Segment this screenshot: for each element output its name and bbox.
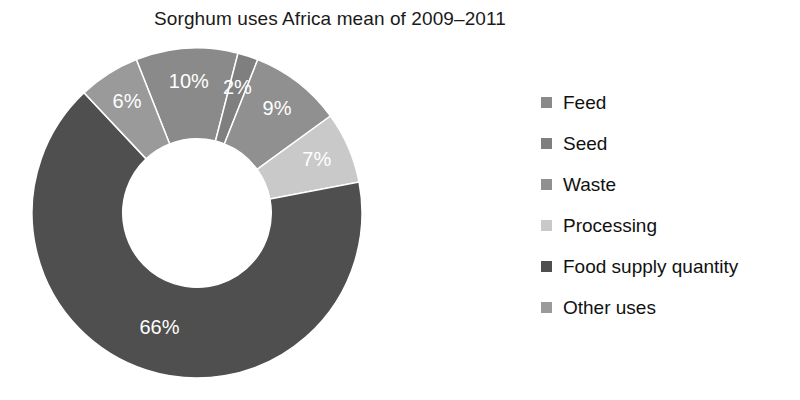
- legend-item[interactable]: Seed: [541, 123, 791, 164]
- legend-item-label: Seed: [563, 134, 607, 153]
- legend-item-label: Feed: [563, 93, 606, 112]
- donut-chart-svg: 10%2%9%7%66%6%: [32, 48, 362, 378]
- legend-item-label: Food supply quantity: [563, 257, 738, 276]
- donut-slice-label: 2%: [223, 76, 252, 98]
- legend-item-label: Waste: [563, 175, 616, 194]
- legend-swatch-icon: [541, 220, 552, 231]
- legend-swatch-icon: [541, 302, 552, 313]
- chart-title: Sorghum uses Africa mean of 2009–2011: [0, 8, 660, 30]
- donut-slice-label: 9%: [263, 97, 292, 119]
- chart-legend: FeedSeedWasteProcessingFood supply quant…: [541, 82, 791, 328]
- legend-item[interactable]: Waste: [541, 164, 791, 205]
- legend-item-label: Other uses: [563, 298, 656, 317]
- legend-item[interactable]: Feed: [541, 82, 791, 123]
- donut-slice-label: 66%: [139, 316, 179, 338]
- donut-slice-label: 7%: [302, 148, 331, 170]
- chart-figure: Sorghum uses Africa mean of 2009–2011 10…: [0, 0, 800, 400]
- donut-slice-label: 6%: [113, 90, 142, 112]
- legend-swatch-icon: [541, 97, 552, 108]
- legend-item[interactable]: Other uses: [541, 287, 791, 328]
- legend-swatch-icon: [541, 261, 552, 272]
- legend-swatch-icon: [541, 138, 552, 149]
- donut-slices: [32, 48, 362, 378]
- legend-item[interactable]: Food supply quantity: [541, 246, 791, 287]
- legend-item[interactable]: Processing: [541, 205, 791, 246]
- legend-item-label: Processing: [563, 216, 657, 235]
- legend-swatch-icon: [541, 179, 552, 190]
- donut-chart-plot-area: 10%2%9%7%66%6%: [32, 48, 362, 378]
- donut-slice-label: 10%: [169, 70, 209, 92]
